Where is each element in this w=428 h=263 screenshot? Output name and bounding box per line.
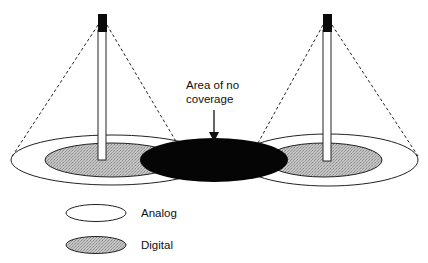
- left-tower-pole: [98, 30, 106, 160]
- legend-analog-swatch: [66, 205, 126, 222]
- right-beam-left: [258, 25, 323, 143]
- legend-item-digital: Digital: [66, 237, 173, 254]
- no-coverage-annotation: Area of no coverage: [186, 79, 239, 142]
- legend: Analog Digital: [66, 205, 177, 254]
- annotation-line-2: coverage: [186, 93, 233, 105]
- legend-item-analog: Analog: [66, 205, 177, 222]
- no-coverage-area: [140, 138, 288, 182]
- left-tower-antenna: [98, 14, 107, 32]
- coverage-diagram: Area of no coverage Analog Digital: [0, 0, 428, 263]
- right-tower-pole: [323, 30, 331, 161]
- legend-digital-swatch: [66, 237, 126, 254]
- annotation-line-1: Area of no: [186, 79, 239, 91]
- legend-analog-label: Analog: [141, 207, 177, 219]
- right-tower-antenna: [323, 14, 332, 32]
- left-beam-right: [107, 25, 177, 143]
- legend-digital-label: Digital: [141, 239, 173, 251]
